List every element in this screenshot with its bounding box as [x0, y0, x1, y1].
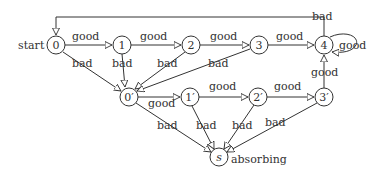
svg-text:2: 2 — [188, 39, 195, 52]
absorbing-label: absorbing — [231, 153, 287, 166]
node-3: 3 — [250, 36, 268, 54]
label-bad: bad — [208, 57, 229, 70]
label-good: good — [210, 30, 237, 43]
label-good: good — [276, 30, 303, 43]
svg-text:0: 0 — [53, 39, 60, 52]
label-bad: bad — [112, 57, 133, 70]
label-bad: bad — [232, 119, 253, 132]
svg-text:4: 4 — [321, 39, 328, 52]
label-good: good — [311, 66, 338, 79]
svg-text:1′: 1′ — [185, 91, 195, 104]
nodes: 0 1 2 3 4 0′ 1′ 2′ 3′ s — [47, 36, 333, 166]
node-2-prime: 2′ — [249, 88, 267, 106]
node-0: 0 — [47, 36, 65, 54]
label-good: good — [72, 30, 99, 43]
label-bad: bad — [196, 119, 217, 132]
label-good: good — [209, 80, 236, 93]
svg-text:s: s — [216, 151, 222, 164]
label-good: good — [148, 97, 175, 110]
label-good-self: good — [339, 39, 366, 52]
node-s: s — [210, 148, 228, 166]
label-bad: bad — [265, 116, 286, 129]
label-bad: bad — [157, 119, 178, 132]
svg-text:0′: 0′ — [124, 91, 134, 104]
label-bad: bad — [72, 57, 93, 70]
svg-text:3: 3 — [256, 39, 263, 52]
start-label: start — [18, 39, 45, 52]
label-good: good — [274, 80, 301, 93]
node-0-prime: 0′ — [120, 88, 138, 106]
svg-text:3′: 3′ — [319, 91, 329, 104]
node-4: 4 — [315, 36, 333, 54]
svg-text:2′: 2′ — [253, 91, 263, 104]
node-1: 1 — [113, 36, 131, 54]
node-1-prime: 1′ — [181, 88, 199, 106]
state-diagram: good good good good good bad bad bad bad… — [0, 0, 384, 177]
node-2: 2 — [182, 36, 200, 54]
svg-text:1: 1 — [119, 39, 126, 52]
label-bad-back: bad — [312, 10, 333, 23]
edge-labels: good good good good good bad bad bad bad… — [72, 10, 366, 132]
label-good: good — [140, 30, 167, 43]
node-3-prime: 3′ — [315, 88, 333, 106]
label-bad: bad — [157, 57, 178, 70]
